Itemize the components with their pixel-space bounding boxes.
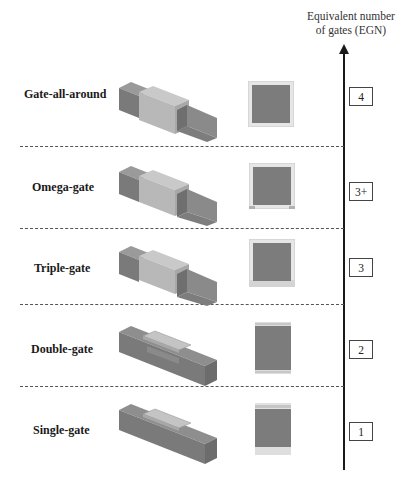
row-label-double-gate: Double-gate [31, 342, 93, 357]
triple-gate-cross-section-icon [249, 239, 295, 287]
row-label-single-gate: Single-gate [33, 423, 90, 438]
single-gate-cross-section-icon [255, 403, 291, 455]
egn-value-box: 4 [349, 87, 373, 106]
single-gate-3d-device-icon [117, 398, 219, 464]
row-divider [20, 228, 344, 229]
gate-all-around-cross-section-icon [248, 81, 294, 127]
triple-gate-3d-device-icon [117, 240, 219, 306]
row-label-triple-gate: Triple-gate [34, 261, 90, 276]
egn-value-box: 2 [349, 340, 373, 359]
omega-gate-cross-section-icon [249, 163, 295, 209]
axis-title: Equivalent number of gates (EGN) [300, 9, 402, 37]
egn-value-box: 3+ [349, 182, 373, 201]
gate-all-around-3d-device-icon [117, 76, 219, 142]
row-label-omega-gate: Omega-gate [32, 180, 94, 195]
egn-value-box: 3 [349, 258, 373, 277]
axis-title-line-2: of gates (EGN) [300, 23, 402, 37]
egn-axis-line [343, 52, 345, 470]
row-label-gate-all-around: Gate-all-around [24, 87, 106, 102]
omega-gate-3d-device-icon [117, 160, 219, 226]
axis-title-line-1: Equivalent number [300, 9, 402, 23]
egn-value-box: 1 [349, 422, 373, 441]
row-divider [20, 386, 344, 387]
double-gate-3d-device-icon [117, 320, 219, 386]
row-divider [20, 146, 344, 147]
double-gate-cross-section-icon [255, 322, 291, 374]
